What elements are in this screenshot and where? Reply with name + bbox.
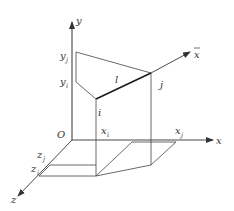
origin-label: O [57, 129, 65, 140]
svg-text:i: i [66, 82, 68, 90]
element-length-label: l [115, 74, 118, 85]
svg-text:i: i [37, 169, 39, 177]
yj-label: y j [59, 50, 68, 64]
coordinate-diagram: y x z x O j i l y j y i x i x j z j [0, 0, 234, 211]
local-x-axis [151, 52, 190, 73]
y-axis-label: y [75, 15, 82, 26]
zj-label: z j [36, 149, 45, 163]
floor-projection [39, 142, 176, 176]
element-line-ij [96, 73, 151, 99]
svg-text:z: z [36, 149, 43, 160]
svg-text:i: i [107, 131, 109, 139]
local-x-axis-label: x [194, 48, 200, 60]
svg-text:z: z [30, 163, 37, 174]
svg-text:y: y [59, 50, 66, 61]
x-axis-label: x [216, 135, 222, 146]
point-i-label: i [98, 107, 101, 118]
z-axis [18, 140, 72, 196]
yi-label: y i [59, 76, 68, 90]
xi-label: x i [101, 125, 109, 139]
point-j-label: j [158, 79, 163, 90]
zi-label: z i [30, 163, 39, 177]
z-axis-label: z [10, 194, 17, 205]
xj-label: x j [175, 125, 183, 139]
svg-text:y: y [59, 76, 66, 87]
upper-projection [76, 52, 151, 99]
svg-text:x: x [194, 49, 200, 60]
